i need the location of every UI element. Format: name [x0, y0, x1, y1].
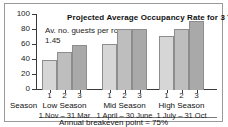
- y-axis-tick: [32, 44, 36, 45]
- y-axis-tick-label: 60: [21, 40, 30, 48]
- chart-screenshot: Projected Average Occupancy Rate for 3 Y…: [0, 0, 228, 127]
- y-axis-line: [36, 14, 37, 90]
- bar-index-label: 2: [57, 91, 72, 100]
- plot-area: [36, 14, 217, 90]
- y-axis-tick: [32, 89, 36, 90]
- bar: [57, 52, 72, 90]
- y-axis-tick: [32, 74, 36, 75]
- y-axis-tick-label: 0: [26, 85, 30, 93]
- bar: [159, 36, 174, 90]
- bar: [117, 29, 132, 91]
- bar-index-label: 3: [72, 91, 87, 100]
- bar-index-label: 2: [117, 91, 132, 100]
- y-axis-tick-label: 40: [21, 55, 30, 63]
- y-axis-tick: [32, 29, 36, 30]
- y-axis-tick-label: 100: [17, 10, 30, 18]
- bar-index-label: 3: [132, 91, 147, 100]
- y-axis-tick-label: 20: [21, 70, 30, 78]
- chart-card: Projected Average Occupancy Rate for 3 Y…: [4, 3, 223, 122]
- bar: [72, 45, 87, 90]
- bar: [102, 44, 117, 90]
- season-dates-label: 1 July – 31 Oct: [137, 111, 227, 120]
- bar-index-label: 1: [102, 91, 117, 100]
- y-axis-tick: [32, 14, 36, 15]
- season-name-label: High Season: [137, 101, 227, 110]
- bar: [132, 29, 147, 90]
- bar-index-label: 2: [174, 91, 189, 100]
- y-axis-tick: [32, 59, 36, 60]
- bar-index-label: 3: [189, 91, 204, 100]
- bar: [174, 29, 189, 91]
- y-axis-labels: 100806040200: [3, 14, 32, 90]
- bar-index-label: 1: [159, 91, 174, 100]
- bar: [42, 60, 57, 90]
- y-axis-tick-label: 80: [21, 25, 30, 33]
- bar-index-label: 1: [42, 91, 57, 100]
- bar: [189, 21, 204, 90]
